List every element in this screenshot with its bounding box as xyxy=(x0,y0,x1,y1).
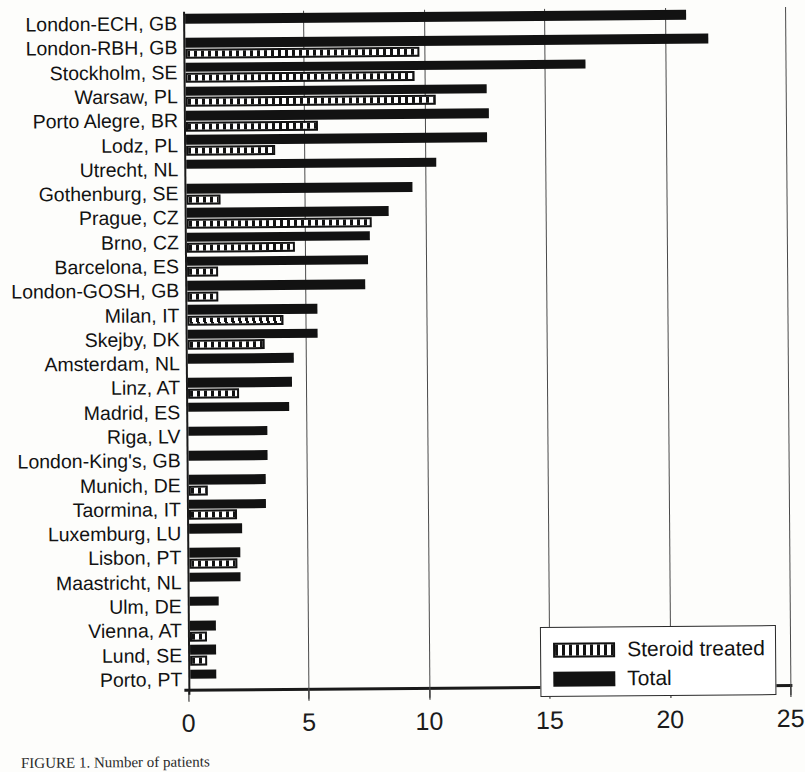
category-label: Madrid, ES xyxy=(84,403,181,423)
bar-total xyxy=(186,157,436,168)
category-label: Ulm, DE xyxy=(109,597,182,617)
bar-steroid-treated xyxy=(188,388,239,398)
category-label: Brno, CZ xyxy=(101,233,179,253)
category-label: Lund, SE xyxy=(102,646,182,666)
bar-steroid-treated xyxy=(188,339,265,350)
bar-total xyxy=(189,523,242,533)
bar-total xyxy=(188,377,292,387)
category-label: Barcelona, ES xyxy=(54,257,179,277)
bar-total xyxy=(189,499,266,509)
x-tick-label-10: 10 xyxy=(415,707,443,736)
bar-total xyxy=(189,450,269,460)
bar-total xyxy=(189,474,266,484)
bar-total xyxy=(187,279,365,290)
figure-caption: FIGURE 1. Number of patients xyxy=(21,754,210,772)
bar-steroid-treated xyxy=(187,242,295,253)
bar-total xyxy=(189,572,240,582)
category-label: Luxemburg, LU xyxy=(48,524,181,544)
bar-steroid-treated xyxy=(185,47,419,59)
category-label: Vienna, AT xyxy=(88,622,182,642)
legend-label-total: Total xyxy=(627,666,672,690)
bar-total xyxy=(185,59,585,72)
category-label: Utrecht, NL xyxy=(80,160,179,180)
bar-total xyxy=(188,353,294,363)
bar-total xyxy=(190,645,217,655)
bar-steroid-treated xyxy=(186,145,275,156)
x-tick-label-25: 25 xyxy=(777,704,805,733)
x-tick-5 xyxy=(309,691,310,701)
bar-steroid-treated xyxy=(187,291,218,301)
legend-item-total: Total xyxy=(553,667,672,690)
category-label: Gothenburg, SE xyxy=(39,184,179,204)
bar-total xyxy=(189,548,240,558)
legend-label-steroid-treated: Steroid treated xyxy=(627,636,765,661)
legend-item-steroid-treated: Steroid treated xyxy=(553,637,765,661)
bar-total xyxy=(188,426,268,436)
x-tick-0 xyxy=(188,692,189,702)
bar-rows: London-ECH, GBLondon-RBH, GBStockholm, S… xyxy=(183,7,790,692)
bar-steroid-treated xyxy=(189,485,208,495)
bar-total xyxy=(188,328,318,339)
bar-steroid-treated xyxy=(186,71,415,83)
category-label: Skejby, DK xyxy=(85,330,180,350)
bar-total xyxy=(185,34,708,48)
bar-total xyxy=(190,669,217,679)
bar-steroid-treated xyxy=(187,217,372,228)
category-label: Riga, LV xyxy=(107,427,181,447)
category-label: London-GOSH, GB xyxy=(11,282,179,302)
bar-steroid-treated xyxy=(189,558,237,568)
bar-total xyxy=(187,255,368,266)
category-label: Taormina, IT xyxy=(73,500,182,520)
solid-black-bar-swatch-icon xyxy=(553,671,615,686)
x-tick-label-15: 15 xyxy=(536,706,564,735)
bar-steroid-treated xyxy=(187,315,283,326)
category-label: Milan, IT xyxy=(105,306,180,326)
category-label: Prague, CZ xyxy=(79,209,179,229)
bar-steroid-treated xyxy=(189,510,237,520)
x-tick-25 xyxy=(790,687,791,697)
category-label: Lisbon, PT xyxy=(88,549,181,569)
bar-steroid-treated xyxy=(190,655,207,665)
chart-legend: Steroid treated Total xyxy=(540,625,777,697)
bar-total xyxy=(186,108,489,120)
category-label: Amsterdam, NL xyxy=(44,354,180,374)
category-label: London-RBH, GB xyxy=(26,39,178,59)
bar-total xyxy=(187,206,389,217)
category-label: Maastricht, NL xyxy=(56,573,182,593)
bar-total xyxy=(185,10,686,23)
category-label: Porto Alegre, BR xyxy=(33,112,178,132)
bar-steroid-treated xyxy=(186,95,436,107)
bar-steroid-treated xyxy=(186,194,220,204)
bar-total xyxy=(187,231,370,242)
bar-total xyxy=(190,621,217,631)
bar-steroid-treated xyxy=(190,631,207,641)
x-tick-label-5: 5 xyxy=(302,708,316,737)
category-label: Lodz, PL xyxy=(101,136,178,156)
plot-area: 0510152025 London-ECH, GBLondon-RBH, GBS… xyxy=(183,7,790,692)
bar-total xyxy=(186,182,412,193)
x-tick-10 xyxy=(429,690,430,700)
category-label: Linz, AT xyxy=(111,379,180,399)
x-tick-label-20: 20 xyxy=(656,705,684,734)
hatched-bar-swatch-icon xyxy=(553,642,615,657)
category-label: Munich, DE xyxy=(80,476,181,496)
x-tick-label-0: 0 xyxy=(182,709,196,738)
bar-total xyxy=(188,401,289,411)
bar-total xyxy=(187,304,317,315)
bar-total xyxy=(190,596,219,606)
bar-steroid-treated xyxy=(186,120,319,131)
category-label: Stockholm, SE xyxy=(50,63,178,83)
figure-container: 0510152025 London-ECH, GBLondon-RBH, GBS… xyxy=(0,0,805,772)
category-label: London-ECH, GB xyxy=(25,14,177,34)
bar-total xyxy=(186,133,487,145)
bar-steroid-treated xyxy=(187,267,218,277)
category-label: Porto, PT xyxy=(100,670,183,690)
category-label: London-King's, GB xyxy=(17,452,180,472)
bar-total xyxy=(186,84,487,96)
category-label: Warsaw, PL xyxy=(74,87,177,107)
